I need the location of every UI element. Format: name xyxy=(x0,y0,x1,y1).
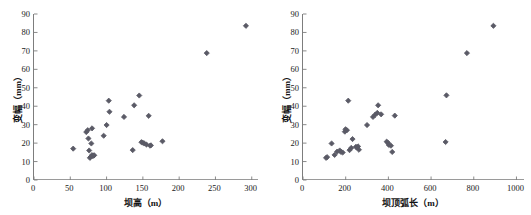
data-point xyxy=(390,149,395,154)
data-point xyxy=(146,113,151,118)
plot-area-left xyxy=(33,14,258,180)
data-point xyxy=(104,122,109,127)
x-tick-label: 300 xyxy=(244,184,257,193)
chart-panel-right: 010203040506070809002004006008001000 坝顶弧… xyxy=(265,0,531,215)
data-point xyxy=(464,51,469,56)
x-tick-label: 200 xyxy=(172,184,185,193)
data-point xyxy=(491,23,496,28)
x-tick-label: 0 xyxy=(300,184,304,193)
data-point xyxy=(443,139,448,144)
x-tick-label: 600 xyxy=(424,184,437,193)
scatter-figure: 0102030405060708090050100150200250300 坝高… xyxy=(0,0,531,215)
data-point xyxy=(160,139,165,144)
data-point xyxy=(350,136,355,141)
y-tick-label: 10 xyxy=(278,157,299,166)
y-tick-label: 10 xyxy=(9,157,30,166)
data-point xyxy=(86,136,91,141)
data-point xyxy=(376,103,381,108)
data-point xyxy=(329,141,334,146)
x-tick-label: 150 xyxy=(135,184,148,193)
data-layer-right xyxy=(303,14,525,180)
x-axis-title-left: 坝高（m） xyxy=(33,196,258,209)
data-point xyxy=(204,51,209,56)
data-layer-left xyxy=(34,14,259,180)
y-tick-label: 20 xyxy=(9,139,30,148)
data-point xyxy=(89,141,94,146)
x-tick-label: 1000 xyxy=(507,184,524,193)
x-tick-label: 0 xyxy=(31,184,35,193)
y-tick-label: 0 xyxy=(278,176,299,185)
data-point xyxy=(107,109,112,114)
data-point xyxy=(121,114,126,119)
y-tick-label: 0 xyxy=(9,176,30,185)
data-point xyxy=(392,113,397,118)
chart-panel-left: 0102030405060708090050100150200250300 坝高… xyxy=(0,0,265,215)
y-axis-title-left: 变幅（mm） xyxy=(11,68,24,128)
data-point xyxy=(137,93,142,98)
data-point xyxy=(444,93,449,98)
plot-area-right xyxy=(302,14,524,180)
data-point xyxy=(71,146,76,151)
x-axis-title-right: 坝顶弧长（m） xyxy=(302,196,524,209)
y-tick-label: 90 xyxy=(278,10,299,19)
y-tick-label: 70 xyxy=(9,47,30,56)
data-point xyxy=(243,23,248,28)
data-point xyxy=(87,148,92,153)
x-tick-label: 100 xyxy=(99,184,112,193)
x-tick-label: 50 xyxy=(65,184,74,193)
x-tick-label: 250 xyxy=(208,184,221,193)
x-tick-label: 800 xyxy=(466,184,479,193)
x-tick-label: 400 xyxy=(381,184,394,193)
y-axis-title-right: 变幅（mm） xyxy=(280,68,293,128)
x-tick-label: 200 xyxy=(338,184,351,193)
y-tick-label: 80 xyxy=(9,28,30,37)
data-point xyxy=(346,98,351,103)
data-point xyxy=(132,103,137,108)
data-point xyxy=(106,98,111,103)
y-tick-label: 20 xyxy=(278,139,299,148)
data-point xyxy=(101,133,106,138)
data-point xyxy=(364,122,369,127)
y-tick-label: 90 xyxy=(9,10,30,19)
y-tick-label: 70 xyxy=(278,47,299,56)
y-tick-label: 80 xyxy=(278,28,299,37)
data-point xyxy=(130,148,135,153)
